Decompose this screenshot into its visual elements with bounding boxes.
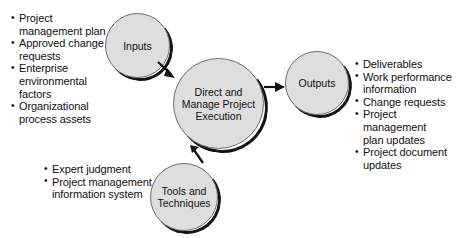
inputs-bullet-list: Project management plan Approved change … [11,12,107,125]
outputs-bullet-list: Deliverables Work performance informatio… [355,58,459,171]
arrow-center-to-outputs [264,82,285,92]
node-outputs-label: Outputs [295,77,340,89]
node-inputs-label: Inputs [119,40,156,52]
node-direct-and-manage-project-execution: Direct and Manage Project Execution [173,58,264,149]
list-item: Project management plan [11,12,107,37]
process-flow-diagram: Project management plan Approved change … [0,0,461,238]
list-item: Expert judgment [44,163,156,176]
list-item: Deliverables [355,58,459,71]
list-item: Project management plan updates [355,108,459,146]
list-item: Approved change requests [11,37,107,62]
node-center-label: Direct and Manage Project Execution [178,86,260,122]
list-item: Project document updates [355,146,459,171]
list-item: Change requests [355,96,459,109]
list-item: Project management information system [44,176,156,201]
node-inputs: Inputs [105,13,170,78]
node-tools-label: Tools and Techniques [153,185,214,209]
list-item: Enterprise environmental factors [11,62,107,100]
node-tools-and-techniques: Tools and Techniques [150,163,218,231]
list-item: Work performance information [355,71,459,96]
tools-bullet-list: Expert judgment Project management infor… [44,163,156,201]
list-item: Organizational process assets [11,100,107,125]
node-outputs: Outputs [285,51,349,115]
